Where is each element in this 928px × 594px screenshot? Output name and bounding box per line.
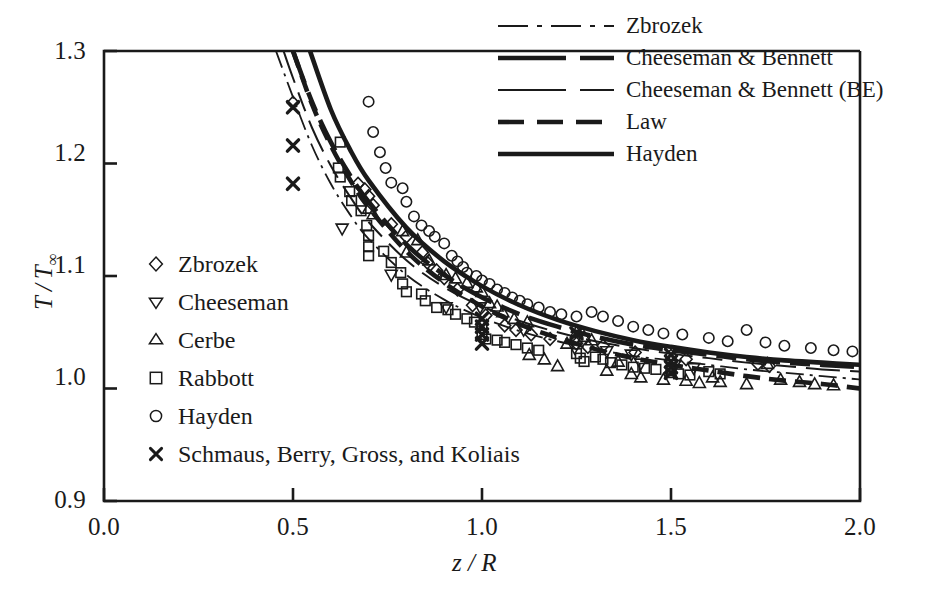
- marker-circle: [363, 96, 373, 106]
- line-swatch-long-dash-thin: [496, 83, 614, 97]
- marker-circle: [439, 238, 449, 248]
- marker-circle: [760, 337, 770, 347]
- marker-cross-x: [287, 178, 298, 189]
- curve-legend-item-cheeseman-bennett-be: Cheeseman & Bennett (BE): [496, 78, 883, 101]
- marker-legend-label: Rabbott: [178, 366, 254, 390]
- marker-circle: [613, 316, 623, 326]
- marker-legend-item-cerbe: Cerbe: [143, 328, 235, 352]
- marker-triangle-down: [336, 224, 348, 235]
- curve-legend-label: Law: [626, 110, 667, 133]
- marker-circle: [375, 147, 385, 157]
- curve-legend-label: Hayden: [626, 142, 698, 165]
- marker-circle: [571, 311, 581, 321]
- marker-circle: [779, 341, 789, 351]
- marker-square: [417, 289, 427, 299]
- marker-circle: [416, 220, 426, 230]
- marker-square: [364, 242, 374, 252]
- curve-legend-label: Cheeseman & Bennett (BE): [626, 78, 883, 101]
- marker-circle: [556, 309, 566, 319]
- curve-legend-label: Cheeseman & Bennett: [626, 46, 833, 69]
- marker-legend-item-cheeseman: Cheeseman: [143, 290, 289, 314]
- marker-cross-x: [287, 102, 298, 113]
- line-swatch-dash-dot: [496, 19, 614, 33]
- marker-circle: [409, 211, 419, 221]
- marker-square: [362, 221, 372, 231]
- marker-legend-item-schmaus: Schmaus, Berry, Gross, and Koliais: [143, 442, 520, 466]
- marker-circle: [806, 343, 816, 353]
- marker-circle: [586, 307, 596, 317]
- marker-legend-item-hayden: Hayden: [143, 404, 253, 428]
- curve-legend-item-zbrozek: Zbrozek: [496, 14, 703, 37]
- marker-square: [511, 340, 521, 350]
- marker-circle: [704, 333, 714, 343]
- marker-circle: [401, 197, 411, 207]
- curve-legend-label: Zbrozek: [626, 14, 703, 37]
- triangle-up-icon: [143, 329, 169, 351]
- marker-cross-x: [287, 140, 298, 151]
- marker-legend-label: Cheeseman: [178, 290, 289, 314]
- marker-legend-label: Hayden: [178, 404, 253, 428]
- marker-circle: [598, 311, 608, 321]
- marker-triangle-up: [552, 360, 564, 371]
- marker-circle: [386, 177, 396, 187]
- cross-x-icon: [143, 443, 169, 465]
- line-swatch-solid-thick: [496, 147, 614, 161]
- marker-legend-item-zbrozek: Zbrozek: [143, 252, 258, 276]
- points-rabbott: [334, 137, 725, 379]
- marker-triangle-up: [601, 364, 613, 375]
- marker-square: [421, 296, 431, 306]
- marker-circle: [628, 321, 638, 331]
- chart-figure: 1.3 1.2 1.1 1.0 0.9 0.0 0.5 1.0 1.5 2.0 …: [0, 0, 928, 594]
- points-zbrozek: [287, 96, 775, 372]
- marker-square: [534, 345, 544, 355]
- marker-circle: [643, 325, 653, 335]
- marker-square: [364, 251, 374, 261]
- line-swatch-medium-dash-thick: [496, 115, 614, 129]
- square-icon: [143, 367, 169, 389]
- marker-circle: [368, 127, 378, 137]
- marker-square: [396, 268, 406, 278]
- circle-icon: [143, 405, 169, 427]
- curve-legend-item-law: Law: [496, 110, 667, 133]
- marker-circle: [380, 163, 390, 173]
- diamond-icon: [143, 253, 169, 275]
- points-hayden: [363, 96, 857, 356]
- marker-circle: [847, 346, 857, 356]
- marker-legend-label: Schmaus, Berry, Gross, and Koliais: [178, 442, 520, 466]
- marker-legend-label: Cerbe: [178, 328, 235, 352]
- marker-circle: [658, 328, 668, 338]
- triangle-down-icon: [143, 291, 169, 313]
- marker-legend-item-rabbott: Rabbott: [143, 366, 254, 390]
- marker-square: [651, 365, 661, 375]
- curve-legend-item-hayden: Hayden: [496, 142, 698, 165]
- curve-legend-item-cheeseman-bennett: Cheeseman & Bennett: [496, 46, 833, 69]
- marker-triangle-up: [741, 378, 753, 389]
- marker-circle: [828, 345, 838, 355]
- marker-legend-label: Zbrozek: [178, 252, 258, 276]
- marker-circle: [723, 336, 733, 346]
- marker-circle: [677, 329, 687, 339]
- line-swatch-long-dash-thick: [496, 51, 614, 65]
- marker-circle: [397, 183, 407, 193]
- marker-circle: [741, 325, 751, 335]
